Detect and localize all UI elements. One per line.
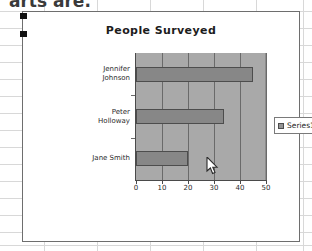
x-tick-label-20: 20 <box>184 184 193 192</box>
gridline-x-50 <box>266 53 267 180</box>
x-tick-label-40: 40 <box>236 184 245 192</box>
clipped-document-text: arts are. <box>9 0 91 11</box>
bar-0[interactable] <box>136 67 253 82</box>
x-tick-label-0: 0 <box>134 184 138 192</box>
category-label-line: Johnson <box>102 74 130 83</box>
selection-handle-left-top[interactable] <box>20 13 27 19</box>
chart-object[interactable]: People Surveyed 01020304050 JenniferJohn… <box>22 11 300 242</box>
x-tick-label-30: 30 <box>210 184 219 192</box>
category-label-line: Holloway <box>98 117 130 126</box>
legend-swatch-series1 <box>278 123 284 129</box>
x-tick-label-50: 50 <box>262 184 271 192</box>
y-axis-line <box>135 53 136 181</box>
y-tick-mark-2 <box>131 138 135 139</box>
chart-legend[interactable]: Series1 <box>274 117 312 134</box>
category-label-line: Jennifer <box>103 65 130 74</box>
bar-1[interactable] <box>136 109 224 124</box>
bar-2[interactable] <box>136 151 188 166</box>
y-tick-mark-1 <box>131 95 135 96</box>
x-axis-line <box>135 180 267 181</box>
x-tick-label-10: 10 <box>158 184 167 192</box>
category-label-line: Jane Smith <box>92 154 130 163</box>
chart-title: People Surveyed <box>23 24 299 37</box>
legend-label-series1: Series1 <box>287 121 312 130</box>
category-label-line: Peter <box>112 108 130 117</box>
plot-area[interactable] <box>136 53 266 180</box>
